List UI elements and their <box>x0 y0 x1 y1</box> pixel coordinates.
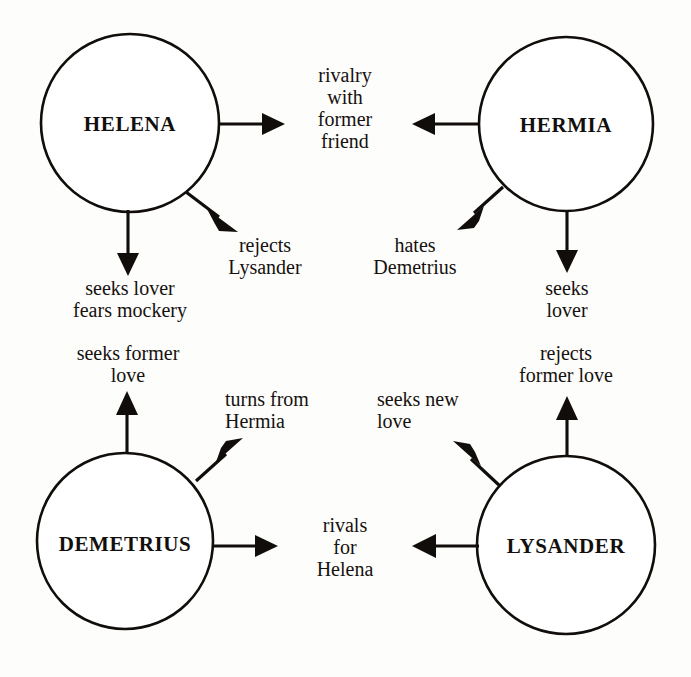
edge-lysander-rivals <box>412 534 479 558</box>
node-circle-helena[interactable] <box>41 34 219 212</box>
edge-hermia-seeks <box>556 210 578 273</box>
arrow-head-icon <box>207 209 238 232</box>
edge-hermia-hates <box>457 187 503 230</box>
edge-label-rivals-for-helena: rivals for Helena <box>317 514 374 580</box>
edge-hermia-rivalry <box>412 113 479 135</box>
node-circle-demetrius[interactable] <box>37 453 213 629</box>
edge-helena-rivalry <box>219 113 285 135</box>
arrow-head-icon <box>412 534 436 558</box>
arrow-head-icon <box>116 391 138 415</box>
arrow-head-icon <box>255 535 278 557</box>
node-circle-lysander[interactable] <box>477 456 655 634</box>
edge-label-rejects-lysander: rejects Lysander <box>228 234 301 278</box>
edge-label-seeks-new-love: seeks new love <box>377 388 459 432</box>
edge-label-rivalry-with-former-friend: rivalry with former friend <box>318 64 372 152</box>
edge-label-seeks-lover: seeks lover <box>545 277 588 321</box>
edge-helena-seeks <box>117 210 139 276</box>
arrow-head-icon <box>216 438 243 462</box>
arrow-head-icon <box>457 206 484 230</box>
edge-label-hates-demetrius: hates Demetrius <box>373 234 456 278</box>
edge-demetrius-rivals <box>213 535 278 557</box>
arrow-head-icon <box>453 441 481 466</box>
arrow-head-icon <box>556 396 578 420</box>
edge-label-seeks-former-love: seeks former love <box>77 342 180 386</box>
edge-lysander-rejects <box>556 396 578 457</box>
edge-label-turns-from-hermia: turns from Hermia <box>225 388 309 432</box>
arrow-head-icon <box>556 250 578 273</box>
edge-helena-rejects <box>186 192 238 232</box>
arrow-head-icon <box>412 113 435 135</box>
edge-demetrius-turns <box>196 438 243 481</box>
relationship-diagram: HELENA HERMIA DEMETRIUS LYSANDER rivalry… <box>0 0 691 677</box>
arrow-head-icon <box>117 253 139 276</box>
edge-label-seeks-lover-fears-mockery: seeks lover fears mockery <box>73 277 187 321</box>
arrow-head-icon <box>262 113 285 135</box>
edge-demetrius-seeks <box>116 391 138 454</box>
node-circle-hermia[interactable] <box>479 37 653 211</box>
edge-label-rejects-former-love: rejects former love <box>519 342 613 386</box>
edge-lysander-seeks <box>453 441 500 486</box>
